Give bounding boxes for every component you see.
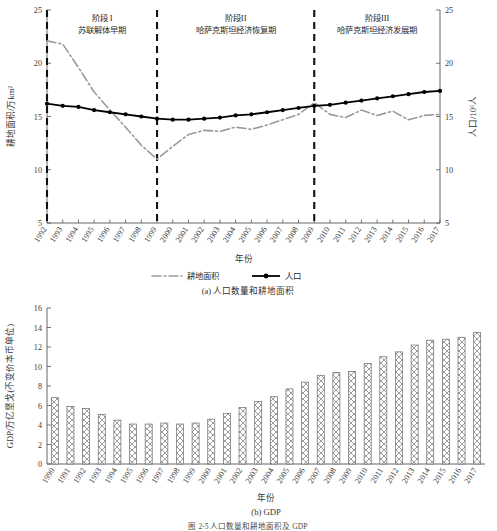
x-tick-label-1993: 1993 bbox=[48, 225, 64, 244]
x-tick-label-2010: 2010 bbox=[315, 225, 331, 244]
y-right-tick-label: 10 bbox=[445, 166, 453, 175]
stage-name-3: 阶段III bbox=[365, 13, 390, 23]
population-point bbox=[344, 101, 348, 105]
x-tick-label-2016: 2016 bbox=[447, 466, 463, 485]
y-left-tick-label: 20 bbox=[34, 59, 42, 68]
legend-population-label: 人口 bbox=[285, 272, 301, 281]
cropland-line bbox=[47, 41, 440, 159]
x-tick-label-2006: 2006 bbox=[252, 225, 268, 244]
population-point bbox=[139, 114, 143, 118]
x-tick-label-2003: 2003 bbox=[205, 225, 221, 244]
y-right-tick-label: 15 bbox=[445, 113, 453, 122]
x-tick-label-1992: 1992 bbox=[71, 466, 87, 485]
population-point bbox=[249, 112, 253, 116]
legend-population-marker bbox=[264, 274, 269, 279]
y-tick-label: 8 bbox=[38, 382, 42, 391]
panel-a-legend: 耕地面积人口 bbox=[152, 271, 301, 281]
panel-a-y-left-axis-title: 耕地面积/万km² bbox=[5, 86, 16, 147]
population-point bbox=[76, 105, 80, 109]
population-point bbox=[359, 98, 363, 102]
x-tick-label-2015: 2015 bbox=[394, 225, 410, 244]
x-tick-label-2011: 2011 bbox=[369, 466, 385, 484]
y-tick-label: 12 bbox=[34, 343, 42, 352]
gdp-bar-2016 bbox=[458, 337, 465, 464]
x-tick-label-1994: 1994 bbox=[103, 466, 119, 485]
x-tick-label-2008: 2008 bbox=[322, 466, 338, 485]
gdp-bar-2004 bbox=[270, 397, 277, 464]
x-tick-label-2009: 2009 bbox=[337, 466, 353, 485]
figure-container: 510152025510152025 阶段 I苏联解体早期阶段II哈萨克斯坦经济… bbox=[0, 0, 497, 531]
x-tick-label-2007: 2007 bbox=[268, 225, 284, 244]
population-point bbox=[186, 118, 190, 122]
population-point bbox=[312, 104, 316, 108]
stage-desc-2: 哈萨克斯坦经济恢复期 bbox=[196, 25, 276, 35]
gdp-bar-1992 bbox=[83, 408, 90, 464]
x-tick-label-2013: 2013 bbox=[363, 225, 379, 244]
gdp-bar-2011 bbox=[380, 357, 387, 464]
x-tick-label-2005: 2005 bbox=[275, 466, 291, 485]
panel-a-caption: (a) 人口数量和耕地面积 bbox=[202, 285, 295, 296]
x-tick-label-2011: 2011 bbox=[331, 225, 347, 243]
x-tick-label-2002: 2002 bbox=[190, 225, 206, 244]
x-tick-label-1999: 1999 bbox=[181, 466, 197, 485]
gdp-bar-2009 bbox=[349, 371, 356, 464]
gdp-bar-2017 bbox=[474, 332, 481, 464]
panel-a-y-right-axis-title: 人口/10⁶人 bbox=[468, 96, 478, 137]
panel-b-y-axis-title: GDP/万亿坚戈(不变价本币单位) bbox=[4, 324, 15, 448]
gdp-bar-1994 bbox=[114, 420, 121, 464]
gdp-bar-2001 bbox=[223, 413, 230, 464]
panel-a-x-axis-title: 年份 bbox=[235, 253, 253, 264]
population-point bbox=[61, 104, 65, 108]
x-tick-label-1998: 1998 bbox=[165, 466, 181, 485]
panel-b-caption: (b) GDP bbox=[251, 507, 281, 517]
gdp-bar-2013 bbox=[411, 345, 418, 464]
x-tick-label-2001: 2001 bbox=[174, 225, 190, 244]
x-tick-label-1998: 1998 bbox=[127, 225, 143, 244]
stage-name-2: 阶段II bbox=[225, 13, 247, 23]
gdp-bar-2008 bbox=[333, 372, 340, 464]
gdp-bar-2003 bbox=[255, 402, 262, 464]
x-tick-label-1996: 1996 bbox=[95, 225, 111, 244]
gdp-bar-2007 bbox=[317, 375, 324, 464]
population-point bbox=[281, 108, 285, 112]
population-point bbox=[218, 115, 222, 119]
population-point bbox=[202, 117, 206, 121]
x-tick-label-1990: 1990 bbox=[40, 466, 56, 485]
stage-divider-lines bbox=[47, 10, 314, 223]
panel-a-x-tick-labels: 1992199319941995199619971998199920002001… bbox=[32, 225, 441, 244]
x-tick-label-2000: 2000 bbox=[197, 466, 213, 485]
y-tick-label: 14 bbox=[34, 324, 42, 333]
y-tick-label: 4 bbox=[38, 421, 42, 430]
gdp-bar-2000 bbox=[208, 419, 215, 464]
panel-a-population-cropland: 510152025510152025 阶段 I苏联解体早期阶段II哈萨克斯坦经济… bbox=[0, 0, 497, 300]
population-point bbox=[265, 110, 269, 114]
gdp-bar-1996 bbox=[145, 424, 152, 464]
population-point bbox=[328, 103, 332, 107]
gdp-bar-2014 bbox=[427, 340, 434, 464]
x-tick-label-1997: 1997 bbox=[150, 466, 166, 485]
panel-b-gdp: 0246810121416 19901991199219931994199519… bbox=[0, 300, 497, 531]
x-tick-label-2003: 2003 bbox=[244, 466, 260, 485]
x-tick-label-2002: 2002 bbox=[228, 466, 244, 485]
population-point bbox=[45, 102, 49, 106]
panel-a-axes: 510152025510152025 bbox=[34, 6, 453, 228]
gdp-bar-1991 bbox=[67, 406, 74, 464]
population-point bbox=[391, 94, 395, 98]
population-series bbox=[45, 89, 442, 122]
y-right-tick-label: 20 bbox=[445, 59, 453, 68]
gdp-bar-1997 bbox=[161, 423, 168, 464]
panel-b-plot-frame bbox=[47, 308, 485, 464]
x-tick-label-2007: 2007 bbox=[306, 466, 322, 485]
population-point bbox=[422, 90, 426, 94]
gdp-bar-1993 bbox=[98, 414, 105, 464]
y-tick-label: 2 bbox=[38, 441, 42, 450]
stage-labels: 阶段 I苏联解体早期阶段II哈萨克斯坦经济恢复期阶段III哈萨克斯坦经济发展期 bbox=[78, 13, 417, 35]
x-tick-label-2004: 2004 bbox=[221, 225, 237, 244]
panel-a-svg: 510152025510152025 阶段 I苏联解体早期阶段II哈萨克斯坦经济… bbox=[0, 0, 497, 300]
population-point bbox=[92, 108, 96, 112]
x-tick-label-1996: 1996 bbox=[134, 466, 150, 485]
x-tick-label-2014: 2014 bbox=[378, 225, 394, 244]
x-tick-label-2006: 2006 bbox=[290, 466, 306, 485]
x-tick-label-2000: 2000 bbox=[158, 225, 174, 244]
gdp-bar-2006 bbox=[302, 382, 309, 464]
